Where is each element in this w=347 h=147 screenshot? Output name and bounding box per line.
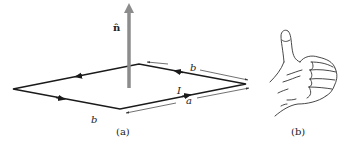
caption-a: (a) <box>116 126 130 137</box>
panel-b: (b) <box>270 30 337 137</box>
side-label-a: a <box>186 95 192 106</box>
panel-a: n̂ b a I b (a) <box>13 3 249 137</box>
thumbs-up-hand-icon <box>270 30 337 116</box>
dimension-b-back <box>147 62 248 80</box>
side-label-b-front: b <box>91 114 97 125</box>
figure: n̂ b a I b (a) <box>0 0 347 147</box>
caption-b: (b) <box>291 126 305 137</box>
direction-arrow-icon <box>78 76 82 77</box>
normal-vector <box>124 3 134 88</box>
normal-label: n̂ <box>113 22 121 33</box>
side-label-b-back: b <box>190 62 196 73</box>
current-label: I <box>176 85 182 96</box>
